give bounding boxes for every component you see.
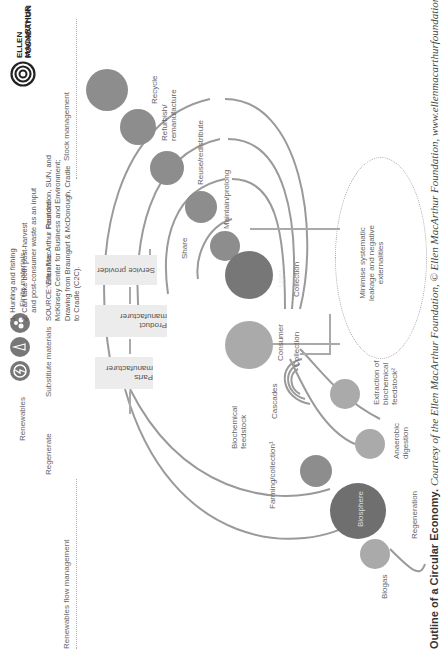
source-note: SOURCE: Ellen MacArthur Foundation, SUN,… [44,155,82,321]
circular-economy-diagram: ELLEN MACARTHUR FOUNDATION Renewables Fi… [0,0,445,659]
label-refurbish: Refurbish/ remanufacture [160,89,178,141]
biogas-icon [360,539,390,569]
footnote-2: 2. Can take both post-harvest and post-c… [20,188,39,321]
label-recycle: Recycle [150,76,159,104]
caption-credit: Courtesy of the Ellen MacArthur Foundati… [428,0,440,486]
label-biosphere: Biosphere [356,491,365,527]
maintain-icon [185,191,217,223]
label-maintain: Maintain/prolong [222,170,231,229]
label-farming: Farming/collection¹ [268,441,277,509]
caption-title: Outline of a Circular Economy. [428,489,440,649]
footnote-1: 1. Hunting and fishing [8,248,17,321]
user-icon [225,251,273,299]
label-biochemical-feedstock: Biochemical feedstock [230,406,248,449]
label-extraction: Extraction of biochemical feedstock² [372,361,400,405]
extraction-icon [330,379,360,409]
service-provider-box: Service provider [95,255,157,285]
product-manufacturer-box: Product manufacturer [95,305,167,337]
label-reuse: Reuse/redistribute [196,120,205,185]
reuse-icon [150,151,184,185]
label-consumer: Consumer [276,324,285,361]
anaerobic-digestion-icon [355,429,385,459]
label-user: User [276,270,285,287]
label-collection-biological: Collection [292,332,301,367]
label-regeneration: Regeneration [410,491,419,539]
farming-icon [300,455,332,487]
label-biogas: Biogas [380,575,389,599]
label-share: Share [180,238,189,259]
recycle-icon [86,69,128,111]
parts-manufacturer-box: Parts manufacturer [95,357,153,389]
refurbish-icon [120,109,156,145]
label-anaerobic: Anaerobic digestion [392,423,410,459]
label-cascades: Cascades [270,383,279,419]
figure-caption: Outline of a Circular Economy. Courtesy … [428,0,440,649]
label-collection-technical: Collection [292,262,301,297]
leakage-label: Minimise systematic leakage and negative… [358,225,386,301]
consumer-icon [225,321,273,369]
